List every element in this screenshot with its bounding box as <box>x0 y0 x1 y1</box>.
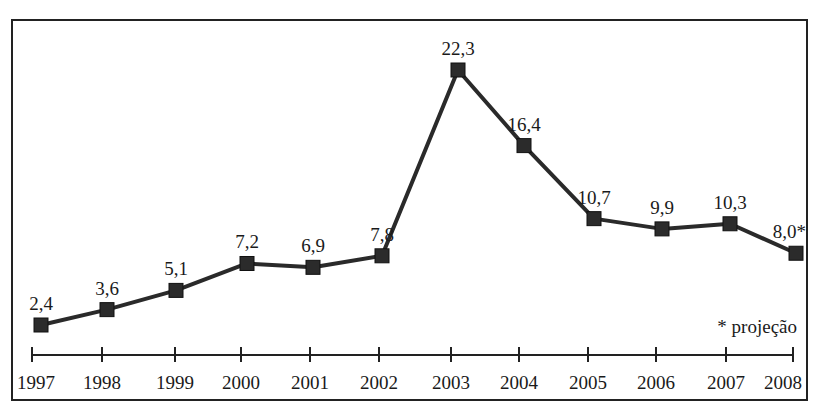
data-point-label: 7,8 <box>370 224 394 245</box>
data-point-label: 8,0* <box>773 221 806 242</box>
data-point-label: 10,3 <box>713 192 746 213</box>
data-point-marker <box>169 283 183 297</box>
data-point-marker <box>375 249 389 263</box>
data-point-label: 6,9 <box>301 235 325 256</box>
x-tick-label: 1999 <box>156 372 194 393</box>
chart-frame <box>12 20 807 400</box>
data-point-marker <box>723 217 737 231</box>
data-point-label: 10,7 <box>577 187 610 208</box>
data-labels: 2,43,65,17,26,97,822,316,410,79,910,38,0… <box>29 38 806 314</box>
data-point-label: 7,2 <box>235 231 259 252</box>
footnote-projecao: * projeção <box>717 316 797 337</box>
data-point-label: 3,6 <box>95 278 119 299</box>
x-tick-label: 2005 <box>569 372 607 393</box>
x-tick-label: 1998 <box>83 372 121 393</box>
data-point-marker <box>100 303 114 317</box>
x-tick-label: 2007 <box>707 372 745 393</box>
x-tick-label: 1997 <box>17 372 55 393</box>
x-axis-labels: 1997199819992000200120022003200420052006… <box>17 372 802 393</box>
data-point-marker <box>451 63 465 77</box>
data-point-label: 22,3 <box>441 38 474 59</box>
data-point-label: 16,4 <box>507 114 541 135</box>
data-line <box>41 70 796 325</box>
data-point-marker <box>517 139 531 153</box>
data-point-marker <box>34 318 48 332</box>
x-tick-label: 2004 <box>500 372 539 393</box>
data-point-marker <box>587 212 601 226</box>
x-tick-label: 2006 <box>637 372 675 393</box>
x-tick-label: 2008 <box>764 372 802 393</box>
data-point-marker <box>789 246 803 260</box>
data-point-marker <box>655 222 669 236</box>
data-point-label: 9,9 <box>650 197 674 218</box>
data-point-marker <box>306 260 320 274</box>
data-point-label: 2,4 <box>29 293 53 314</box>
data-point-marker <box>240 256 254 270</box>
x-tick-label: 2000 <box>222 372 260 393</box>
x-tick-label: 2002 <box>360 372 398 393</box>
line-chart: 1997199819992000200120022003200420052006… <box>0 0 818 413</box>
data-markers <box>34 63 803 332</box>
data-point-label: 5,1 <box>164 258 188 279</box>
x-tick-label: 2001 <box>291 372 329 393</box>
x-tick-label: 2003 <box>432 372 470 393</box>
